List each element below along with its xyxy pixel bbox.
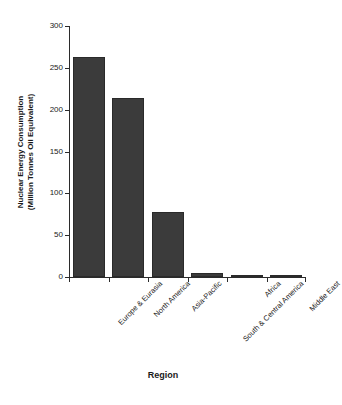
y-tick-label: 200 xyxy=(50,106,63,114)
bar xyxy=(112,98,144,277)
y-axis-title: Nuclear Energy Consumption (Million Tonn… xyxy=(14,26,38,278)
plot-area: 050100150200250300 xyxy=(69,26,306,278)
x-tick-label: Europe & Eurasia xyxy=(116,279,164,327)
y-tick-label: 100 xyxy=(50,189,63,197)
bar-series xyxy=(69,26,306,278)
y-tick-label: 300 xyxy=(50,22,63,30)
bar xyxy=(231,275,263,278)
y-tick-label: 250 xyxy=(50,64,63,72)
y-tick-label: 150 xyxy=(50,148,63,156)
bar xyxy=(73,57,105,277)
x-axis-title: Region xyxy=(0,370,326,380)
bar xyxy=(270,275,302,277)
y-tick-label: 50 xyxy=(54,231,63,239)
y-tick-label: 0 xyxy=(59,273,63,281)
y-axis-title-line-2: (Million Tonnes Oil Equivalent) xyxy=(26,94,36,210)
x-axis-tick-labels: Europe & EurasiaNorth AmericaAsia-Pacifi… xyxy=(69,279,306,359)
y-axis-title-line-1: Nuclear Energy Consumption xyxy=(16,94,26,210)
bar xyxy=(191,273,223,277)
bar xyxy=(152,212,184,277)
x-tick-label: Asia-Pacific xyxy=(189,279,223,313)
x-tick-label: Africa xyxy=(262,279,282,299)
x-tick-label: Middle East xyxy=(308,279,342,313)
